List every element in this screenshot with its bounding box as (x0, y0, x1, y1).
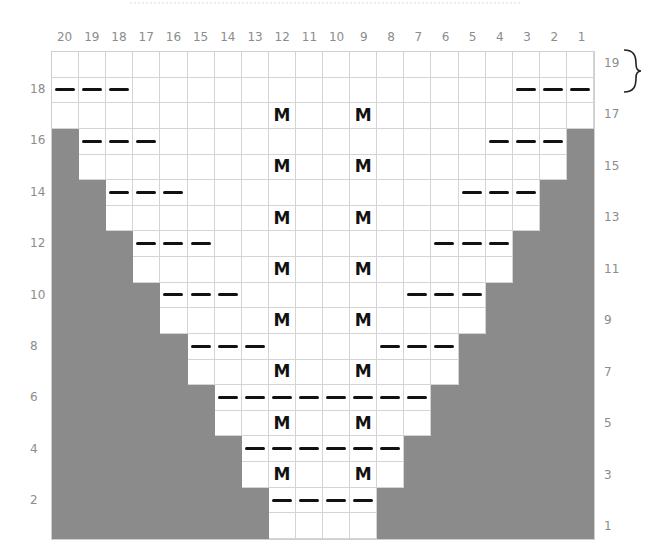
chart-cell (486, 488, 513, 514)
chart-cell (133, 129, 160, 155)
chart-cell (350, 513, 377, 539)
row-label: 11 (604, 262, 619, 276)
chart-cell (79, 180, 106, 206)
chart-cell (296, 513, 323, 539)
chart-cell (215, 308, 242, 334)
chart-cell (242, 257, 269, 283)
chart-cell (269, 283, 296, 309)
chart-cell: M (269, 257, 296, 283)
chart-cell (215, 103, 242, 129)
chart-cell (540, 488, 567, 514)
chart-cell (188, 360, 215, 386)
chart-cell (513, 78, 540, 104)
chart-cell (323, 411, 350, 437)
chart-cell (160, 257, 187, 283)
chart-cell (160, 308, 187, 334)
column-label: 17 (133, 30, 160, 50)
chart-cell (540, 231, 567, 257)
chart-cell (296, 155, 323, 181)
chart-cell (160, 103, 187, 129)
knitting-chart-grid: MMMMMMMMMMMMMMMM (51, 51, 595, 540)
chart-cell (486, 129, 513, 155)
chart-cell (486, 462, 513, 488)
chart-cell (404, 308, 431, 334)
chart-cell (106, 206, 133, 232)
chart-cell (350, 231, 377, 257)
chart-cell (377, 155, 404, 181)
chart-cell (106, 436, 133, 462)
chart-cell (52, 257, 79, 283)
chart-cell (133, 206, 160, 232)
column-label: 10 (323, 30, 350, 50)
chart-cell (567, 283, 594, 309)
chart-cell (377, 385, 404, 411)
chart-cell (133, 180, 160, 206)
chart-cell (459, 513, 486, 539)
chart-cell (404, 103, 431, 129)
row-label: 4 (30, 442, 38, 456)
chart-cell (269, 231, 296, 257)
chart-cell (513, 231, 540, 257)
row-label: 2 (30, 493, 38, 507)
chart-cell (431, 129, 458, 155)
column-label: 16 (160, 30, 187, 50)
chart-cell (404, 411, 431, 437)
chart-cell (133, 103, 160, 129)
chart-cell (215, 257, 242, 283)
column-label: 9 (350, 30, 377, 50)
chart-cell (431, 103, 458, 129)
chart-cell (79, 231, 106, 257)
chart-cell (567, 180, 594, 206)
make-one-symbol: M (273, 158, 290, 175)
chart-cell (106, 129, 133, 155)
chart-cell (133, 257, 160, 283)
chart-cell (160, 206, 187, 232)
chart-cell (79, 334, 106, 360)
chart-cell (486, 436, 513, 462)
chart-cell (133, 334, 160, 360)
row-label: 7 (604, 365, 612, 379)
make-one-symbol: M (355, 363, 372, 380)
chart-cell (540, 52, 567, 78)
chart-cell (242, 334, 269, 360)
chart-cell (377, 129, 404, 155)
chart-cell (188, 513, 215, 539)
chart-cell (377, 436, 404, 462)
chart-cell (106, 462, 133, 488)
chart-cell (242, 103, 269, 129)
chart-cell (160, 462, 187, 488)
chart-cell (296, 129, 323, 155)
column-label: 7 (405, 30, 432, 50)
column-label: 18 (105, 30, 132, 50)
chart-cell (106, 308, 133, 334)
make-one-symbol: M (273, 107, 290, 124)
chart-cell: M (269, 411, 296, 437)
chart-cell (160, 513, 187, 539)
chart-cell (296, 308, 323, 334)
chart-cell (459, 206, 486, 232)
chart-cell (513, 488, 540, 514)
make-one-symbol: M (355, 210, 372, 227)
chart-cell (431, 231, 458, 257)
make-one-symbol: M (273, 415, 290, 432)
column-label: 2 (541, 30, 568, 50)
chart-cell (459, 360, 486, 386)
chart-cell (567, 334, 594, 360)
chart-cell (242, 129, 269, 155)
make-one-symbol: M (355, 312, 372, 329)
chart-cell: M (350, 411, 377, 437)
chart-cell (242, 155, 269, 181)
chart-cell (160, 488, 187, 514)
chart-cell (52, 488, 79, 514)
chart-cell (133, 78, 160, 104)
chart-cell (133, 513, 160, 539)
chart-cell (486, 283, 513, 309)
chart-cell (160, 180, 187, 206)
chart-cell (296, 231, 323, 257)
chart-cell (269, 436, 296, 462)
chart-cell (52, 334, 79, 360)
chart-cell (215, 462, 242, 488)
chart-cell (215, 411, 242, 437)
chart-cell (188, 283, 215, 309)
chart-cell (323, 308, 350, 334)
